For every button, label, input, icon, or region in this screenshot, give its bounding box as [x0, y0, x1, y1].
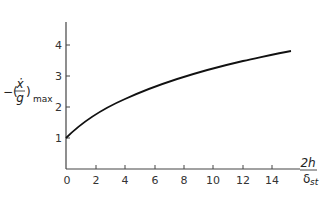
- data-curve: [66, 51, 291, 138]
- svg-text:4: 4: [55, 39, 62, 52]
- svg-text:2: 2: [93, 174, 100, 187]
- svg-text:ẋ: ẋ: [15, 77, 24, 91]
- x-axis-label: 2h δ st: [300, 156, 319, 187]
- svg-text:8: 8: [181, 174, 188, 187]
- svg-text:g: g: [16, 91, 24, 105]
- svg-text:1: 1: [55, 132, 62, 145]
- svg-text:3: 3: [55, 70, 62, 83]
- svg-text:14: 14: [265, 174, 279, 187]
- svg-text:6: 6: [152, 174, 159, 187]
- svg-text:2h: 2h: [300, 156, 315, 170]
- svg-text:4: 4: [122, 174, 129, 187]
- svg-text:st: st: [310, 177, 319, 187]
- svg-text:2: 2: [55, 101, 62, 114]
- y-axis-label: −( ẋ g ) max: [3, 77, 53, 105]
- svg-text:max: max: [33, 94, 53, 104]
- chart: 0 2 4 6 8 10 12 14 1 2 3 4 −( ẋ g ) max …: [0, 0, 330, 201]
- svg-text:): ): [26, 85, 31, 99]
- svg-text:10: 10: [206, 174, 220, 187]
- x-tick-labels: 0 2 4 6 8 10 12 14: [64, 174, 280, 187]
- svg-text:12: 12: [236, 174, 250, 187]
- y-tick-labels: 1 2 3 4: [55, 39, 62, 145]
- svg-text:0: 0: [64, 174, 71, 187]
